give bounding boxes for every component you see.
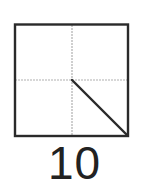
stroke-number-label: 10	[0, 140, 149, 183]
character-stroke	[72, 80, 127, 135]
